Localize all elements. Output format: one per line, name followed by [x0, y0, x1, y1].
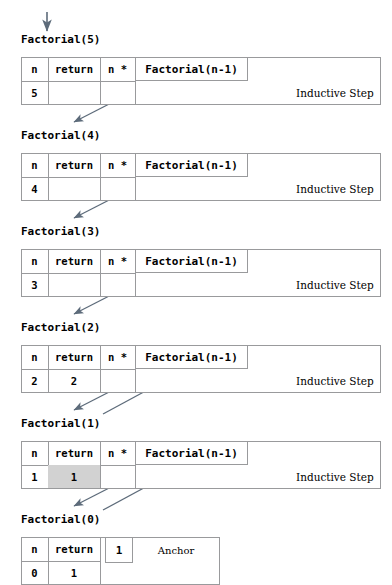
value-return-highlighted: 1 — [48, 465, 100, 488]
block-title: Factorial(4) — [21, 129, 100, 142]
col-header-n: n — [21, 153, 48, 177]
value-return — [48, 81, 100, 105]
value-n: 1 — [21, 465, 48, 489]
step-kind-label: Inductive Step — [296, 177, 374, 201]
value-return — [48, 177, 100, 201]
col-header-n: n — [21, 249, 48, 273]
block-title: Factorial(1) — [21, 417, 100, 430]
block-title: Factorial(3) — [21, 225, 100, 238]
recursive-call-box: Factorial(n-1) — [135, 153, 248, 177]
col-header-return: return — [48, 57, 100, 81]
col-header-return: return — [48, 441, 100, 465]
multiply-label: n * — [100, 345, 135, 369]
block-title: Factorial(5) — [21, 33, 100, 46]
value-return — [48, 273, 100, 297]
block-title: Factorial(2) — [21, 321, 100, 334]
step-kind-label: Inductive Step — [296, 81, 374, 105]
multiply-label: n * — [100, 57, 135, 81]
recursive-call-box: Factorial(n-1) — [135, 345, 248, 369]
anchor-value-box: 1 — [105, 537, 133, 563]
col-header-return: return — [48, 153, 100, 177]
multiply-label: n * — [100, 441, 135, 465]
recursive-call-box: Factorial(n-1) — [135, 57, 248, 81]
multiply-label: n * — [100, 249, 135, 273]
step-kind-label: Inductive Step — [296, 369, 374, 393]
recursive-call-box: Factorial(n-1) — [135, 249, 248, 273]
value-return: 1 — [48, 561, 100, 585]
col-header-return: return — [48, 249, 100, 273]
block-title: Factorial(0) — [21, 513, 100, 526]
col-header-n: n — [21, 57, 48, 81]
value-n: 4 — [21, 177, 48, 201]
col-header-n: n — [21, 537, 48, 561]
col-header-n: n — [21, 345, 48, 369]
recursive-call-box: Factorial(n-1) — [135, 441, 248, 465]
col-header-return: return — [48, 345, 100, 369]
anchor-kind-label: Anchor — [140, 537, 212, 563]
value-n: 5 — [21, 81, 48, 105]
value-return: 2 — [48, 369, 100, 393]
value-n: 2 — [21, 369, 48, 393]
value-n: 3 — [21, 273, 48, 297]
value-n: 0 — [21, 561, 48, 585]
col-header-n: n — [21, 441, 48, 465]
multiply-label: n * — [100, 153, 135, 177]
step-kind-label: Inductive Step — [296, 273, 374, 297]
col-header-return: return — [48, 537, 100, 561]
step-kind-label: Inductive Step — [296, 465, 374, 489]
